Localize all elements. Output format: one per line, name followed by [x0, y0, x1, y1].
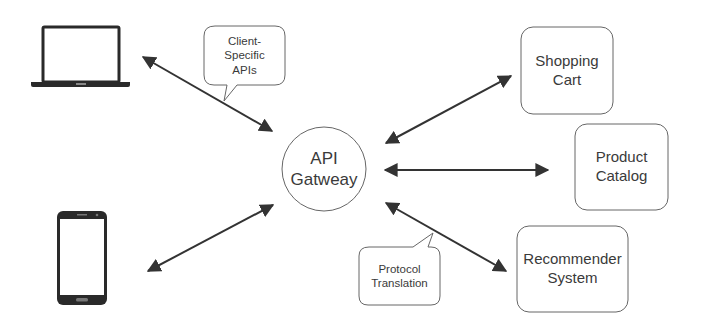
arrow-gateway-shopping-cart	[386, 76, 511, 143]
shopping-cart-label: Shopping Cart	[521, 27, 613, 114]
api-gateway-label: API Gatweay	[282, 127, 366, 211]
client-specific-apis-label: Client- Specific APIs	[204, 26, 285, 85]
product-catalog-label: Product Catalog	[575, 124, 668, 210]
protocol-translation-label: Protocol Translation	[359, 247, 440, 305]
smartphone-icon	[57, 211, 107, 305]
recommender-system-label: Recommender System	[517, 226, 628, 312]
laptop-icon	[31, 27, 130, 87]
arrow-phone-gateway	[148, 205, 273, 271]
